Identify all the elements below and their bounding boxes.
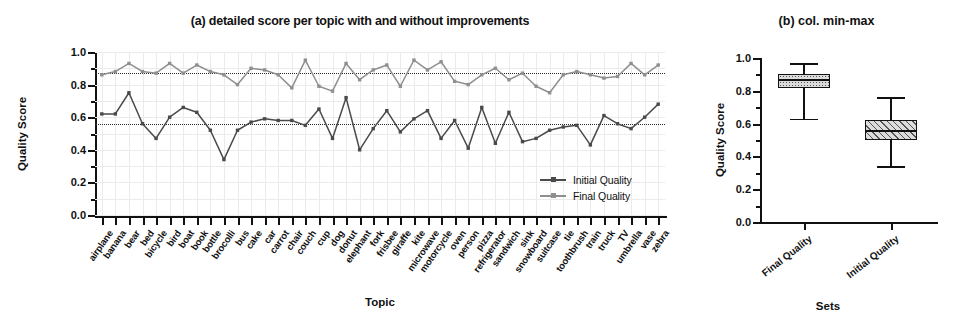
panel-a-data-point [304,58,307,61]
panel-a-x-tick [428,216,430,225]
panel-a-x-tick [319,216,321,225]
panel-b-title: (b) col. min-max [700,14,953,28]
panel-b-cap-max [877,97,905,99]
panel-a-x-tick [455,216,457,225]
panel-a-data-point [467,146,470,149]
panel-b-box-plot [778,58,830,222]
panel-a-data-point [344,62,347,65]
panel-a-x-tick [102,216,104,225]
panel-a-x-tick [238,216,240,225]
panel-b-y-tick [753,91,760,93]
panel-a-data-point [562,73,565,76]
panel-a-data-point [385,109,388,112]
panel-b-cap-min [790,119,818,121]
panel-a-data-point [521,140,524,143]
panel-a-data-point [236,129,239,132]
panel-b-y-tick [753,58,760,60]
panel-b-x-tick [804,222,806,230]
panel-b-cap-max [790,63,818,65]
panel-a-series-line [102,93,658,160]
panel-a-data-point [358,148,361,151]
panel-a-data-point [317,107,320,110]
panel-b-x-axis-title: Sets [816,300,840,312]
panel-a-data-point [562,125,565,128]
panel-a-x-tick [550,216,552,225]
panel-b-y-tick [753,222,760,224]
figure: (a) detailed score per topic with and wi… [0,0,953,329]
panel-a-x-tick [468,216,470,225]
panel-a-x-tick [265,216,267,225]
panel-a-data-point [534,137,537,140]
panel-a-data-point [575,70,578,73]
panel-a-data-point [372,68,375,71]
panel-a-data-point [195,63,198,66]
panel-a-x-tick [604,216,606,225]
panel-a-data-point [114,70,117,73]
panel-b-whisker-lower [803,88,805,119]
panel-a-data-point [575,124,578,127]
panel-a-data-point [657,102,660,105]
panel-b-y-tick-label: 0.2 [736,183,751,195]
panel-a-data-point [494,142,497,145]
panel-a-x-tick [170,216,172,225]
panel-a-data-point [494,67,497,70]
panel-b-y-tick-label: 1.0 [736,52,751,64]
panel-a-x-tick [333,216,335,225]
panel-a-x-tick [373,216,375,225]
panel-b-y-tick [753,189,760,191]
panel-b-cap-min [877,166,905,168]
panel-a-x-tick [292,216,294,225]
panel-b-y-tick [753,156,760,158]
panel-a-data-point [141,122,144,125]
panel-a-data-point [467,83,470,86]
panel-a-data-point [331,89,334,92]
panel-b-y-tick-label: 0.0 [736,216,751,228]
legend-label-initial-quality: Initial Quality [573,174,632,186]
panel-b-median-line [866,130,916,132]
panel-b-median-line [779,79,829,81]
legend-swatch-initial-quality [540,175,566,185]
panel-a-data-point [426,68,429,71]
panel-a-x-tick [523,216,525,225]
panel-a-x-tick [387,216,389,225]
panel-a-data-point [399,85,402,88]
panel-a-data-point [209,70,212,73]
panel-b-box-body [865,120,917,140]
panel-a-x-tick [590,216,592,225]
panel-b-box-body [778,74,830,87]
panel-a-y-tick-label: 0.0 [71,209,86,221]
panel-a-x-tick [482,216,484,225]
panel-a-data-point [331,137,334,140]
panel-a-x-tick [495,216,497,225]
panel-a-data-point [453,119,456,122]
panel-a-x-tick [197,216,199,225]
panel-a-data-point [290,86,293,89]
panel-a-data-point [426,109,429,112]
panel-a-x-tick [210,216,212,225]
panel-a-title: (a) detailed score per topic with and wi… [80,14,640,28]
panel-b-y-tick-label: 0.6 [736,118,751,130]
panel-a-x-tick [631,216,633,225]
panel-a-data-point [358,78,361,81]
panel-a-data-point [399,130,402,133]
panel-a-x-tick [441,216,443,225]
panel-a-data-point [127,91,130,94]
panel-a-data-point [127,62,130,65]
panel-a-x-tick [224,216,226,225]
panel-a-data-point [534,85,537,88]
panel-a-x-tick [278,216,280,225]
panel-a-y-tick [88,85,95,87]
panel-a-y-tick [88,215,95,217]
panel-a-data-point [453,80,456,83]
panel-a-data-point [182,71,185,74]
panel-a-x-tick [251,216,253,225]
panel-a-y-axis-title: Quality Score [16,97,28,171]
panel-a-y-tick-label: 0.4 [71,144,86,156]
panel-a-data-point [277,73,280,76]
panel-b-x-category-label: Initial Quality [845,233,901,280]
legend-item-initial-quality: Initial Quality [540,172,632,188]
panel-a-x-tick [143,216,145,225]
panel-a-x-tick [563,216,565,225]
legend-swatch-final-quality [540,191,566,201]
panel-a-x-tick [129,216,131,225]
